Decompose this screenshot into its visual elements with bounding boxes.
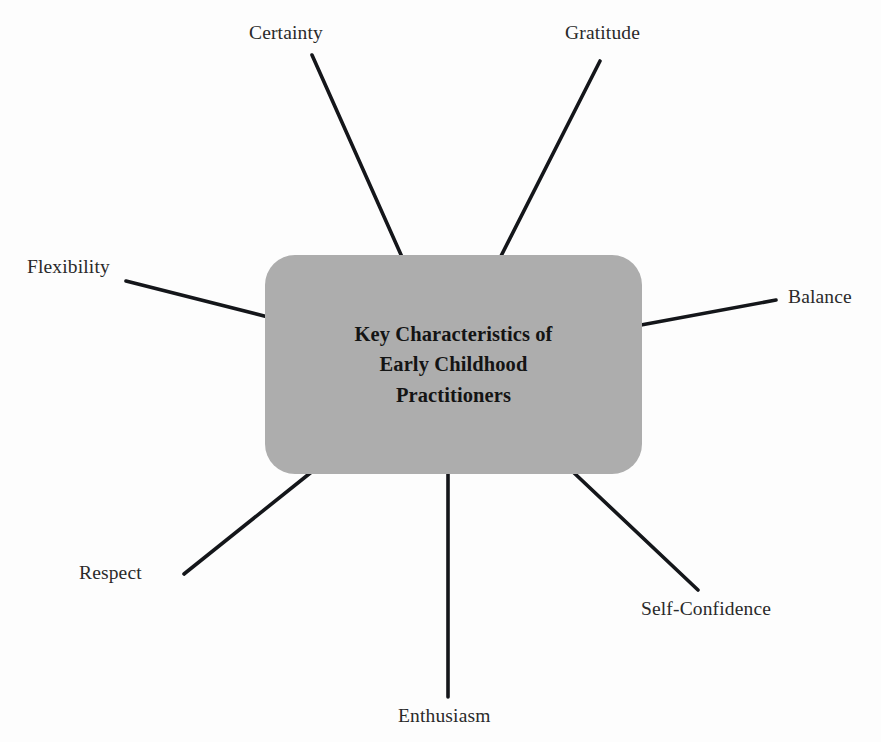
spoke-line-certainty	[312, 55, 402, 257]
center-node-title: Key Characteristics of Early Childhood P…	[340, 319, 566, 410]
spoke-label-flexibility: Flexibility	[27, 256, 110, 277]
spoke-diagram: Key Characteristics of Early Childhood P…	[0, 0, 881, 742]
spoke-label-gratitude: Gratitude	[565, 22, 640, 43]
spoke-label-enthusiasm: Enthusiasm	[398, 705, 491, 726]
spoke-label-respect: Respect	[79, 562, 142, 583]
spoke-line-balance	[641, 300, 776, 325]
spoke-line-flexibility	[126, 281, 268, 317]
spoke-label-certainty: Certainty	[249, 22, 323, 43]
spoke-line-respect	[184, 470, 314, 574]
spoke-line-gratitude	[501, 61, 600, 256]
center-node: Key Characteristics of Early Childhood P…	[265, 255, 642, 474]
spoke-line-self-confidence	[572, 471, 698, 590]
spoke-label-balance: Balance	[788, 286, 852, 307]
spoke-label-self-confidence: Self-Confidence	[641, 598, 771, 619]
